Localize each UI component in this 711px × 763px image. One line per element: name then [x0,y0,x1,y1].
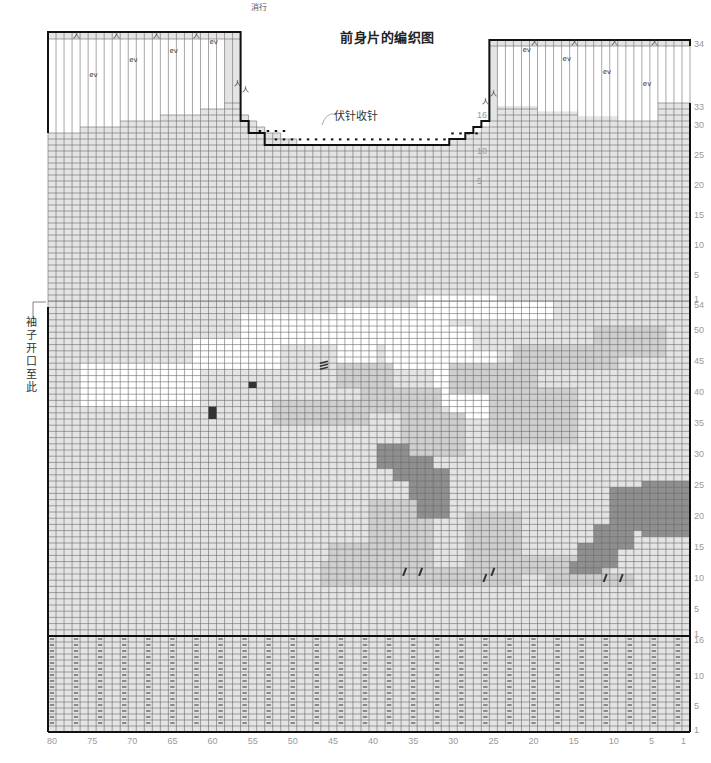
svg-text:ev: ev [89,71,97,79]
row-label-upper: 1 [694,295,699,304]
svg-text:人: 人 [242,86,249,94]
row-label-body: 30 [694,450,704,459]
svg-text:ev: ev [210,38,218,46]
sleeve-opening-annotation: 袖子开口至此 [26,316,40,394]
row-label-body: 25 [694,481,704,490]
svg-text:人: 人 [234,80,241,88]
grid-lines [48,32,690,732]
row-label-upper: 20 [694,181,704,190]
row-label-body: 50 [694,326,704,335]
shoulder-short-row-annotation: 消行 [251,1,267,12]
row-label-ribbing: 10 [694,672,704,681]
svg-text:人: 人 [193,32,200,40]
svg-text:ev: ev [522,46,530,54]
column-label: 10 [609,737,619,746]
svg-text:ev: ev [563,55,571,63]
row-label-upper: 30 [694,121,704,130]
svg-text:人: 人 [490,90,497,98]
row-label-upper: 15 [694,211,704,220]
svg-text:ev: ev [603,68,611,76]
svg-text:人: 人 [571,39,578,47]
row-label-body: 1 [694,630,699,639]
row-label-neck: 5 [477,177,482,186]
column-label: 45 [328,737,338,746]
row-label-upper: 10 [694,241,704,250]
svg-text:人: 人 [113,32,120,40]
column-label: 80 [47,737,57,746]
column-label: 15 [569,737,579,746]
column-label: 30 [448,737,458,746]
row-label-body: 35 [694,419,704,428]
bind-off-dots [259,130,478,140]
column-label: 35 [408,737,418,746]
row-label-body: 5 [694,605,699,614]
row-label-body: 45 [694,357,704,366]
svg-text:ev: ev [643,80,651,88]
row-label-neck: 10 [477,147,487,156]
svg-text:人: 人 [531,39,538,47]
row-label-upper: 25 [694,151,704,160]
svg-text:人: 人 [153,32,160,40]
row-label-body: 15 [694,543,704,552]
row-label-neck: 16 [477,111,487,120]
column-label: 50 [288,737,298,746]
column-label: 55 [248,737,258,746]
svg-text:ev: ev [169,47,177,55]
row-label-upper: 33 [694,103,704,112]
row-label-body: 40 [694,388,704,397]
row-label-upper: 34 [694,40,704,49]
column-label: 40 [368,737,378,746]
row-label-ribbing: 5 [694,702,699,711]
svg-text:ev: ev [129,56,137,64]
chart-title: 前身片的编织图 [340,27,435,46]
bind-off-annotation: 伏针收针 [334,107,378,123]
column-label: 60 [208,737,218,746]
svg-text:人: 人 [611,39,618,47]
column-label: 5 [649,737,654,746]
svg-text:人: 人 [482,98,489,106]
column-label: 25 [488,737,498,746]
svg-text:人: 人 [73,32,80,40]
row-label-body: 10 [694,574,704,583]
column-label: 75 [87,737,97,746]
row-label-ribbing: 1 [694,726,699,735]
row-label-upper: 5 [694,271,699,280]
column-label: 65 [167,737,177,746]
svg-text:人: 人 [651,39,658,47]
column-label: 70 [127,737,137,746]
column-label: 20 [529,737,539,746]
row-label-body: 20 [694,512,704,521]
column-label: 1 [681,737,686,746]
